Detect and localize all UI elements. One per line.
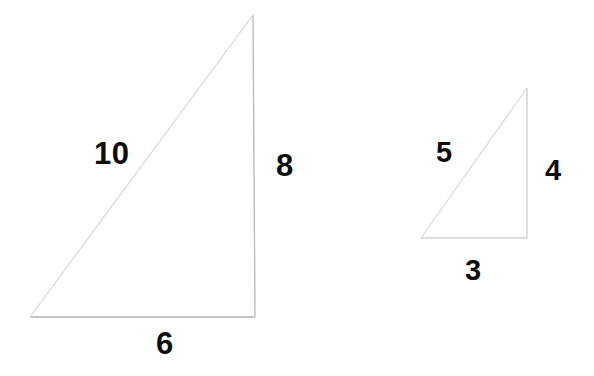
triangles-diagram (0, 0, 594, 376)
large-triangle-vertical-label: 8 (276, 150, 294, 181)
large-triangle-vertical-side (253, 15, 255, 317)
large-triangle-base-label: 6 (156, 328, 174, 359)
small-triangle-base-label: 3 (465, 256, 482, 285)
large-triangle-hypotenuse (30, 15, 253, 317)
small-triangle-hypotenuse-label: 5 (436, 138, 453, 167)
figure-canvas: 10 8 6 5 4 3 (0, 0, 594, 376)
small-triangle-vertical-label: 4 (545, 156, 562, 185)
large-triangle (30, 15, 255, 317)
large-triangle-hypotenuse-label: 10 (94, 138, 129, 169)
